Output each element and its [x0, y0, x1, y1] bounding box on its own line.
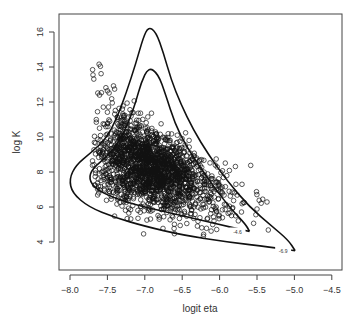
x-axis: −8.0−7.5−7.0−6.5−6.0−5.5−5.0−4.5: [61, 275, 341, 295]
x-tick-label: −5.5: [248, 285, 266, 295]
y-tick-label: 8: [35, 169, 45, 174]
y-tick-label: 4: [35, 239, 45, 244]
x-tick-label: −7.5: [99, 285, 117, 295]
x-axis-label: logit eta: [182, 303, 217, 314]
x-tick-label: −6.0: [211, 285, 229, 295]
x-tick-label: −8.0: [61, 285, 79, 295]
x-tick-label: −7.0: [136, 285, 154, 295]
y-axis-label: log K: [11, 130, 22, 153]
contour-label: -6.9: [279, 248, 288, 254]
y-axis: 46810121416: [35, 27, 54, 245]
x-tick-label: −4.5: [323, 285, 341, 295]
y-tick-label: 6: [35, 204, 45, 209]
y-tick-label: 10: [35, 132, 45, 142]
y-tick-label: 12: [35, 97, 45, 107]
contour-label: -4.6: [233, 229, 242, 235]
scatter-plot: -4.6-6.9 −8.0−7.5−7.0−6.5−6.0−5.5−5.0−4.…: [0, 0, 360, 329]
x-tick-label: −6.5: [173, 285, 191, 295]
y-tick-label: 16: [35, 27, 45, 37]
x-tick-label: −5.0: [286, 285, 304, 295]
y-tick-label: 14: [35, 62, 45, 72]
scatter-points: [90, 62, 270, 239]
